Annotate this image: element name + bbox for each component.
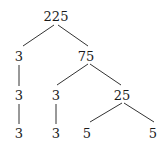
node-3: 3 — [52, 89, 60, 102]
factor-tree-diagram: 225 3 75 3 3 25 3 3 5 5 — [0, 0, 165, 148]
node-3: 3 — [15, 127, 23, 140]
node-25: 25 — [114, 89, 131, 102]
edge-25-5-left — [90, 103, 122, 122]
node-3: 3 — [15, 50, 23, 63]
edge-225-3 — [23, 25, 54, 46]
node-3: 3 — [15, 89, 23, 102]
node-3: 3 — [52, 127, 60, 140]
node-5: 5 — [83, 127, 91, 140]
edge-225-75 — [58, 25, 88, 46]
node-75: 75 — [78, 50, 95, 63]
node-5: 5 — [149, 127, 157, 140]
edge-75-25 — [90, 64, 121, 85]
edge-75-3 — [57, 64, 88, 85]
node-225: 225 — [44, 10, 69, 23]
edge-25-5-right — [124, 103, 154, 122]
